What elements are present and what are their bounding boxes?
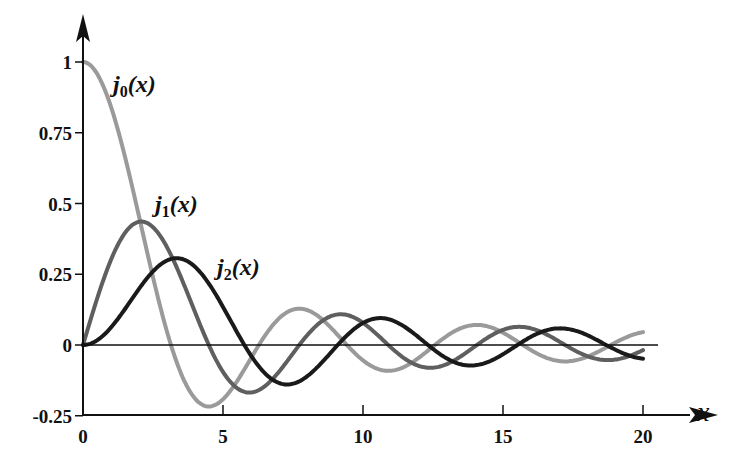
x-ticks: 05101520 [78,405,652,447]
x-tick-label: 0 [78,426,88,447]
y-tick-label: 0.25 [39,264,72,285]
curve-j2x [83,258,643,384]
curves [83,62,643,407]
label-j2: j2(x) [213,254,260,283]
curve-j1x [83,222,643,393]
x-axis-label: x [696,396,710,427]
bessel-chart: 10.750.50.250-0.25 05101520 x j0(x) j1(x… [0,0,739,469]
curve-j0x [83,62,643,407]
y-tick-label: 0.5 [48,194,72,215]
x-tick-label: 10 [354,426,373,447]
label-j0: j0(x) [109,71,156,100]
y-ticks: 10.750.50.250-0.25 [32,52,83,427]
y-tick-label: 0.75 [39,123,72,144]
y-tick-label: 0 [63,335,73,356]
label-j1: j1(x) [151,191,198,220]
y-tick-label: -0.25 [32,406,72,427]
y-tick-label: 1 [63,52,73,73]
x-tick-label: 15 [494,426,513,447]
x-tick-label: 20 [634,426,653,447]
x-tick-label: 5 [218,426,228,447]
